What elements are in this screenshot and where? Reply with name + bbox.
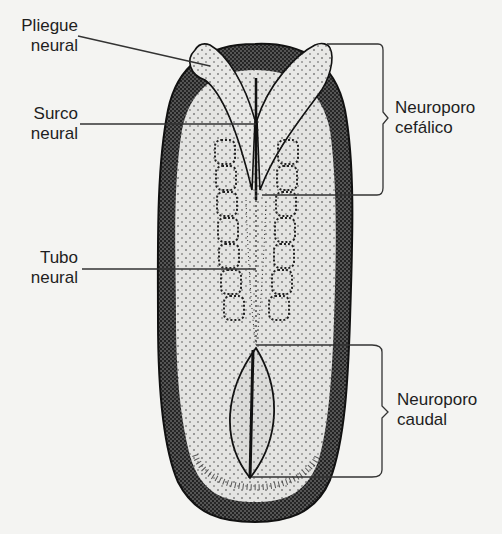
label-tubo-neural: Tubo neural <box>8 248 78 288</box>
label-line: Neuroporo <box>395 98 475 118</box>
label-line: caudal <box>397 410 477 430</box>
label-line: Tubo <box>8 248 78 268</box>
label-line: Surco <box>8 104 78 124</box>
label-line: Pliegue <box>8 16 78 36</box>
brace-caudal <box>372 345 388 477</box>
leader-pliegue <box>78 36 210 66</box>
label-line: Neuroporo <box>397 390 477 410</box>
label-line: neural <box>8 36 78 56</box>
label-surco-neural: Surco neural <box>8 104 78 144</box>
label-neuroporo-caudal: Neuroporo caudal <box>397 390 477 430</box>
label-line: neural <box>8 124 78 144</box>
label-line: cefálico <box>395 118 475 138</box>
label-pliegue-neural: Pliegue neural <box>8 16 78 56</box>
label-neuroporo-cefalico: Neuroporo cefálico <box>395 98 475 138</box>
label-line: neural <box>8 268 78 288</box>
diagram-canvas: Pliegue neural Surco neural Tubo neural … <box>0 0 502 534</box>
